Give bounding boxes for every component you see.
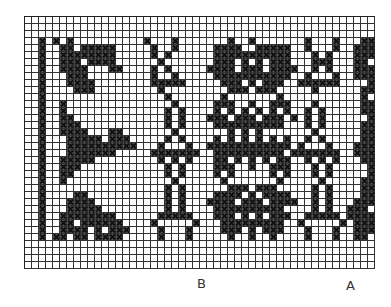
empty-cell <box>144 227 151 234</box>
empty-cell <box>235 129 242 136</box>
empty-cell <box>347 73 354 80</box>
empty-cell <box>291 31 298 38</box>
stitch-cell <box>368 87 375 94</box>
empty-cell <box>193 262 200 269</box>
empty-cell <box>102 94 109 101</box>
empty-cell <box>67 241 74 248</box>
empty-cell <box>25 164 32 171</box>
empty-cell <box>242 38 249 45</box>
empty-cell <box>88 24 95 31</box>
empty-cell <box>123 241 130 248</box>
empty-cell <box>46 255 53 262</box>
empty-cell <box>172 136 179 143</box>
empty-cell <box>284 17 291 24</box>
empty-cell <box>74 255 81 262</box>
empty-cell <box>368 255 375 262</box>
empty-cell <box>298 171 305 178</box>
stitch-cell <box>165 52 172 59</box>
empty-cell <box>144 255 151 262</box>
empty-cell <box>186 52 193 59</box>
empty-cell <box>46 199 53 206</box>
stitch-cell <box>249 52 256 59</box>
empty-cell <box>200 248 207 255</box>
empty-cell <box>53 255 60 262</box>
empty-cell <box>179 227 186 234</box>
empty-cell <box>179 220 186 227</box>
empty-cell <box>305 164 312 171</box>
empty-cell <box>333 136 340 143</box>
empty-cell <box>53 87 60 94</box>
empty-cell <box>123 31 130 38</box>
empty-cell <box>102 108 109 115</box>
empty-cell <box>165 255 172 262</box>
empty-cell <box>25 59 32 66</box>
empty-cell <box>298 192 305 199</box>
empty-cell <box>130 108 137 115</box>
empty-cell <box>32 192 39 199</box>
empty-cell <box>123 59 130 66</box>
empty-cell <box>109 171 116 178</box>
empty-cell <box>53 192 60 199</box>
empty-cell <box>312 220 319 227</box>
empty-cell <box>333 192 340 199</box>
empty-cell <box>25 80 32 87</box>
stitch-cell <box>277 122 284 129</box>
empty-cell <box>123 248 130 255</box>
empty-cell <box>32 66 39 73</box>
empty-cell <box>116 115 123 122</box>
empty-cell <box>46 45 53 52</box>
empty-cell <box>74 24 81 31</box>
empty-cell <box>291 178 298 185</box>
stitch-cell <box>305 213 312 220</box>
empty-cell <box>123 199 130 206</box>
stitch-cell <box>74 164 81 171</box>
stitch-cell <box>368 52 375 59</box>
empty-cell <box>200 136 207 143</box>
stitch-cell <box>319 136 326 143</box>
empty-cell <box>235 248 242 255</box>
empty-cell <box>340 122 347 129</box>
empty-cell <box>67 24 74 31</box>
stitch-cell <box>291 199 298 206</box>
empty-cell <box>32 122 39 129</box>
empty-cell <box>368 262 375 269</box>
stitch-cell <box>151 52 158 59</box>
empty-cell <box>95 241 102 248</box>
empty-cell <box>53 101 60 108</box>
empty-cell <box>74 241 81 248</box>
empty-cell <box>46 220 53 227</box>
stitch-cell <box>81 157 88 164</box>
stitch-cell <box>158 87 165 94</box>
empty-cell <box>235 31 242 38</box>
empty-cell <box>123 164 130 171</box>
empty-cell <box>32 115 39 122</box>
empty-cell <box>277 129 284 136</box>
empty-cell <box>46 262 53 269</box>
empty-cell <box>312 108 319 115</box>
empty-cell <box>60 248 67 255</box>
empty-cell <box>158 248 165 255</box>
empty-cell <box>95 17 102 24</box>
empty-cell <box>32 94 39 101</box>
stitch-cell <box>312 171 319 178</box>
empty-cell <box>305 199 312 206</box>
stitch-cell <box>312 101 319 108</box>
empty-cell <box>74 101 81 108</box>
empty-cell <box>340 241 347 248</box>
empty-cell <box>347 220 354 227</box>
stitch-cell <box>214 122 221 129</box>
empty-cell <box>102 157 109 164</box>
empty-cell <box>256 157 263 164</box>
empty-cell <box>186 171 193 178</box>
stitch-cell <box>228 150 235 157</box>
stitch-cell <box>270 87 277 94</box>
empty-cell <box>340 185 347 192</box>
empty-cell <box>326 262 333 269</box>
empty-cell <box>214 241 221 248</box>
empty-cell <box>74 262 81 269</box>
empty-cell <box>95 157 102 164</box>
empty-cell <box>123 66 130 73</box>
empty-cell <box>74 17 81 24</box>
empty-cell <box>25 220 32 227</box>
empty-cell <box>312 136 319 143</box>
